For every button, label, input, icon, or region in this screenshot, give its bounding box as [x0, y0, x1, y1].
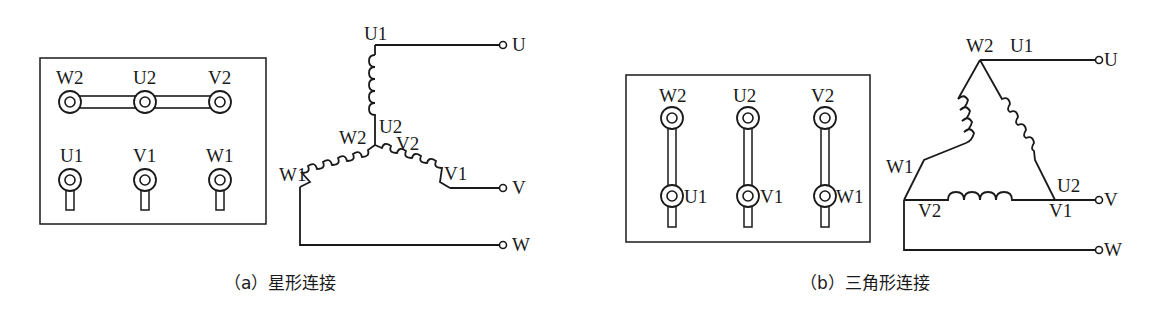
output-label: U [512, 34, 526, 55]
caption-a: （a）星形连接 [224, 273, 336, 293]
terminal-icon [737, 107, 759, 129]
node-label: U1 [364, 23, 387, 44]
node-label: W1 [886, 156, 913, 177]
output-terminal-icon [500, 185, 507, 192]
delta-schematic: W2 U1 W1 U2 V2 V1 U V W [886, 35, 1122, 260]
output-label: V [512, 177, 526, 198]
coil-w-icon [300, 145, 375, 187]
node-label: W2 [339, 127, 366, 148]
terminal-label: V2 [811, 85, 834, 106]
output-label: U [1104, 49, 1118, 70]
node-label: V1 [1049, 200, 1072, 221]
star-schematic: U1 U2 W2 V2 W1 V1 U V W [279, 23, 530, 255]
node-label: U2 [1057, 175, 1080, 196]
terminal-icon [209, 169, 231, 210]
coil-right-icon [980, 60, 1055, 200]
terminal-icon [209, 91, 231, 113]
terminal-icon [814, 107, 836, 129]
coil-left-icon [904, 60, 980, 200]
node-label: V2 [396, 133, 419, 154]
terminal-icon [737, 185, 759, 207]
terminal-icon [134, 91, 156, 113]
panel-b-terminal-box: W2 U2 V2 U1 V1 W1 [626, 75, 870, 242]
terminal-label: W2 [56, 67, 83, 88]
terminal-label: U2 [733, 85, 756, 106]
node-label: U1 [1010, 35, 1033, 56]
output-label: V [1104, 189, 1118, 210]
terminal-icon [59, 169, 81, 210]
terminal-icon [814, 185, 836, 207]
node-label: W2 [966, 35, 993, 56]
output-terminal-icon [1096, 247, 1103, 254]
caption-b: （b）三角形连接 [800, 273, 930, 293]
terminal-label: U2 [133, 67, 156, 88]
node-label: W1 [279, 164, 306, 185]
output-label: W [512, 234, 530, 255]
terminal-icon [59, 91, 81, 113]
output-terminal-icon [500, 242, 507, 249]
terminal-icon [661, 107, 683, 129]
terminal-label: U1 [60, 145, 83, 166]
terminal-label: V2 [208, 67, 231, 88]
terminal-icon [134, 169, 156, 210]
line-w [300, 187, 500, 245]
node-label: V1 [444, 163, 467, 184]
terminal-label: W1 [206, 145, 233, 166]
coil-base-icon [904, 192, 1055, 200]
terminal-label: V1 [760, 186, 783, 207]
terminal-label: U1 [684, 186, 707, 207]
output-label: W [1104, 239, 1122, 260]
coil-u-icon [369, 55, 375, 145]
output-terminal-icon [1096, 57, 1103, 64]
terminal-icon [661, 185, 683, 207]
motor-connection-diagram: W2 U2 V2 U1 V1 W1 U1 [0, 0, 1150, 312]
output-terminal-icon [500, 42, 507, 49]
terminal-label: W1 [836, 186, 863, 207]
terminal-label: W2 [659, 85, 686, 106]
output-terminal-icon [1096, 197, 1103, 204]
panel-a-terminal-box: W2 U2 V2 U1 V1 W1 [40, 58, 266, 224]
node-label: V2 [918, 200, 941, 221]
terminal-label: V1 [133, 145, 156, 166]
